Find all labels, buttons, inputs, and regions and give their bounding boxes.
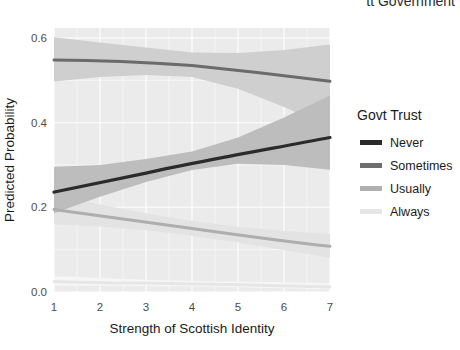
- x-tick-label-6: 6: [281, 301, 287, 313]
- x-axis-title: Strength of Scottish Identity: [109, 321, 274, 336]
- x-tick-label-3: 3: [143, 301, 149, 313]
- chart-title: tt Government: [366, 0, 455, 9]
- legend-label-always: Always: [390, 205, 430, 219]
- x-axis: 1 2 3 4 5 6 7 Strength of Scottish Ident…: [51, 301, 333, 336]
- legend-item-sometimes[interactable]: Sometimes: [360, 159, 453, 173]
- x-tick-label-1: 1: [51, 301, 57, 313]
- y-tick-label-3: 0.6: [31, 32, 47, 44]
- x-tick-label-5: 5: [235, 301, 241, 313]
- legend-label-sometimes: Sometimes: [390, 159, 453, 173]
- legend-swatch-usually: [360, 186, 382, 191]
- legend-item-usually[interactable]: Usually: [360, 182, 432, 196]
- y-axis-title: Predicted Probability: [2, 98, 17, 222]
- legend-label-never: Never: [390, 136, 423, 150]
- legend-item-never[interactable]: Never: [360, 136, 423, 150]
- x-tick-label-4: 4: [189, 301, 196, 313]
- y-tick-label-0: 0.0: [31, 286, 47, 298]
- x-tick-label-2: 2: [97, 301, 103, 313]
- legend: Govt Trust Never Sometimes Usually Alway…: [357, 107, 453, 219]
- x-tick-label-7: 7: [327, 301, 333, 313]
- y-tick-label-1: 0.2: [31, 201, 47, 213]
- legend-swatch-always: [360, 209, 382, 214]
- chart-figure: tt Government: [0, 0, 460, 350]
- plot-panel: [54, 28, 330, 292]
- y-axis: 0.0 0.2 0.4 0.6 Predicted Probability: [2, 32, 48, 298]
- legend-item-always[interactable]: Always: [360, 205, 430, 219]
- legend-swatch-sometimes: [360, 163, 382, 168]
- legend-swatch-never: [360, 140, 382, 145]
- y-tick-label-2: 0.4: [31, 117, 48, 129]
- legend-title: Govt Trust: [357, 107, 422, 123]
- legend-label-usually: Usually: [390, 182, 432, 196]
